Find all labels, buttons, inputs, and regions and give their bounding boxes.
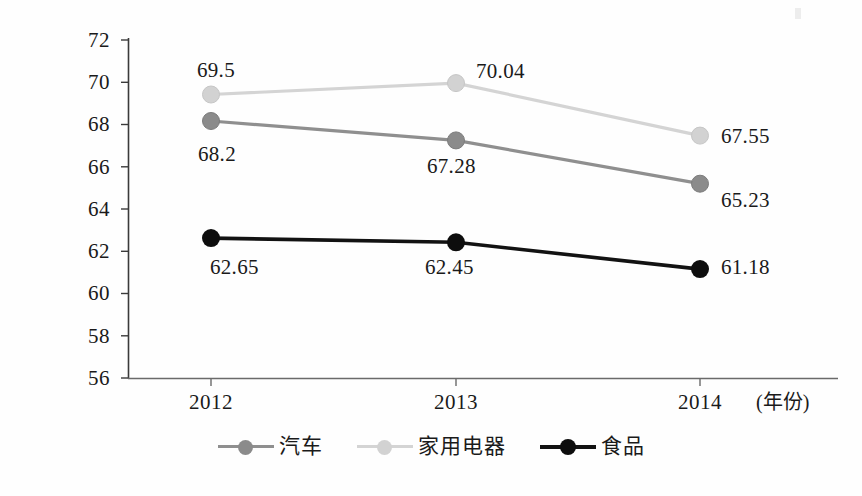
- data-label-cars-2012: 68.2: [198, 144, 236, 165]
- chart-page: 72 70 68 66 64 62 60 58 56 2012 2013 201…: [0, 0, 862, 496]
- data-label-appliances-2012: 69.5: [197, 60, 235, 81]
- x-tick-label-2013: 2013: [401, 392, 511, 413]
- x-axis-unit-label: (年份): [756, 392, 809, 412]
- series-line-cars: [203, 113, 709, 193]
- y-tick-label-56: 56: [64, 368, 110, 389]
- data-label-cars-2013: 67.28: [427, 156, 476, 177]
- y-tick-label-66: 66: [64, 157, 110, 178]
- y-tick-label-62: 62: [64, 241, 110, 262]
- legend-item-appliances[interactable]: 家用电器: [357, 436, 506, 457]
- y-tick-label-72: 72: [64, 30, 110, 51]
- data-label-food-2014: 61.18: [721, 257, 770, 278]
- y-tick-label-58: 58: [64, 326, 110, 347]
- y-tick-label-68: 68: [64, 114, 110, 135]
- line-chart: 72 70 68 66 64 62 60 58 56 2012 2013 201…: [0, 0, 862, 496]
- y-axis-ticks: [121, 40, 128, 378]
- y-tick-label-64: 64: [64, 199, 110, 220]
- legend-item-food[interactable]: 食品: [540, 436, 645, 457]
- legend-marker-cars-icon: [218, 439, 274, 455]
- data-label-appliances-2014: 67.55: [721, 126, 770, 147]
- legend-label-cars: 汽车: [279, 436, 323, 457]
- y-tick-label-70: 70: [64, 72, 110, 93]
- legend-label-appliances: 家用电器: [418, 436, 506, 457]
- data-label-food-2013: 62.45: [425, 257, 474, 278]
- legend-marker-appliances-icon: [357, 439, 413, 455]
- chart-legend: 汽车 家用电器 食品: [0, 436, 862, 457]
- data-label-appliances-2013: 70.04: [476, 61, 525, 82]
- x-tick-label-2014: 2014: [645, 392, 755, 413]
- y-tick-label-60: 60: [64, 283, 110, 304]
- legend-item-cars[interactable]: 汽车: [218, 436, 323, 457]
- data-label-food-2012: 62.65: [210, 257, 259, 278]
- chart-canvas: [0, 0, 862, 496]
- data-label-cars-2014: 65.23: [721, 190, 770, 211]
- x-tick-label-2012: 2012: [156, 392, 266, 413]
- legend-label-food: 食品: [601, 436, 645, 457]
- legend-marker-food-icon: [540, 439, 596, 455]
